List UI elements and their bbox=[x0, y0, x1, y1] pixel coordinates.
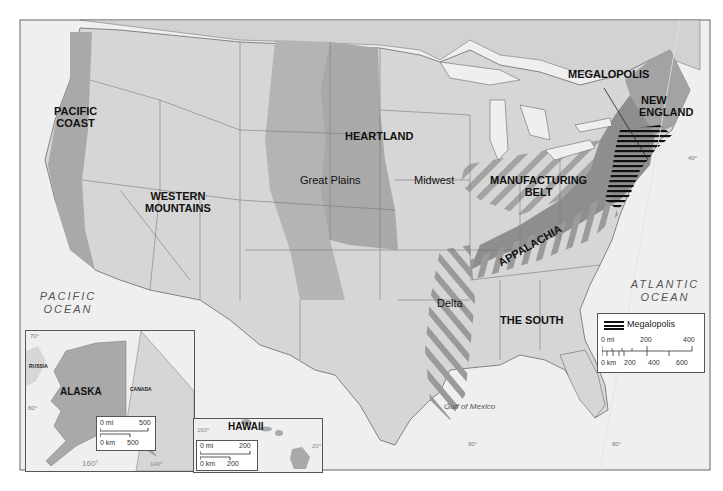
region-label-midwest: Midwest bbox=[414, 174, 454, 186]
manufacturing-belt-line1: MANUFACTURING bbox=[490, 174, 587, 186]
region-label-new-england: NEW ENGLAND bbox=[639, 94, 693, 118]
lat-40-label: 40° bbox=[688, 155, 697, 161]
pacific-coast-line1: PACIFIC bbox=[54, 105, 97, 117]
scale-km-400: 400 bbox=[648, 359, 660, 366]
hawaii-inset: HAWAII 160° 20° 0 mi 200 0 km 200 bbox=[193, 418, 323, 473]
alaska-inset: 70° 60° RUSSIA CANADA ALASKA 0 mi 500 0 … bbox=[25, 330, 195, 472]
region-label-western-mountains: WESTERN MOUNTAINS bbox=[145, 190, 211, 214]
hi-scale-mi-start: 0 mi bbox=[200, 442, 213, 449]
ak-scale-km-start: 0 km bbox=[100, 439, 115, 446]
new-england-line2: ENGLAND bbox=[639, 106, 693, 118]
region-label-delta: Delta bbox=[437, 297, 463, 309]
lon-90-label: 90° bbox=[468, 441, 477, 447]
atlantic-line1: ATLANTIC bbox=[625, 278, 705, 291]
scale-km-200: 200 bbox=[624, 359, 636, 366]
lon-80-label: 80° bbox=[612, 441, 621, 447]
new-england-line1: NEW bbox=[639, 94, 693, 106]
hawaii-label: HAWAII bbox=[228, 421, 264, 433]
canada-label: CANADA bbox=[130, 386, 152, 392]
ak-scale-km-end: 500 bbox=[127, 439, 139, 446]
pacific-line2: OCEAN bbox=[28, 303, 108, 316]
ak-scale-mi-end: 500 bbox=[139, 419, 151, 426]
russia-label: RUSSIA bbox=[29, 363, 48, 369]
alaska-scale-box: 0 mi 500 0 km 500 bbox=[96, 416, 156, 451]
hi-scale-km-end: 200 bbox=[227, 460, 239, 467]
scale-mi-end: 400 bbox=[683, 336, 695, 343]
scale-bar bbox=[602, 344, 698, 358]
legend-megalopolis-label: Megalopolis bbox=[627, 319, 675, 329]
ak-scale-bar bbox=[100, 428, 152, 438]
ak-lat-70: 70° bbox=[30, 333, 39, 339]
region-label-pacific-coast: PACIFIC COAST bbox=[54, 105, 97, 129]
hi-lon-160: 160° bbox=[197, 427, 209, 433]
region-label-manufacturing-belt: MANUFACTURING BELT bbox=[490, 174, 587, 198]
hawaii-scale-box: 0 mi 200 0 km 200 bbox=[196, 440, 258, 471]
hi-scale-km-start: 0 km bbox=[200, 460, 215, 467]
ak-lat-60: 60° bbox=[28, 405, 37, 411]
manufacturing-belt-line2: BELT bbox=[490, 186, 587, 198]
hi-scale-mi-end: 200 bbox=[239, 442, 251, 449]
atlantic-ocean-label: ATLANTIC OCEAN bbox=[625, 278, 705, 304]
region-label-megalopolis: MEGALOPOLIS bbox=[568, 68, 649, 80]
ak-scale-mi-start: 0 mi bbox=[100, 419, 113, 426]
region-label-great-plains: Great Plains bbox=[300, 174, 361, 186]
scale-mi-start: 0 mi bbox=[601, 336, 614, 343]
ak-lon-140: 140° bbox=[150, 461, 162, 467]
scale-mi-mid: 200 bbox=[640, 336, 652, 343]
pacific-ocean-label: PACIFIC OCEAN bbox=[28, 290, 108, 316]
legend-box: Megalopolis 0 mi 200 400 0 km 200 400 60… bbox=[597, 313, 705, 373]
region-label-the-south: THE SOUTH bbox=[500, 314, 564, 326]
hi-lat-20: 20° bbox=[312, 443, 321, 449]
megalopolis-symbol-icon bbox=[604, 321, 624, 330]
region-label-heartland: HEARTLAND bbox=[345, 130, 413, 142]
pacific-coast-line2: COAST bbox=[54, 117, 97, 129]
western-mountains-line2: MOUNTAINS bbox=[145, 202, 211, 214]
western-mountains-line1: WESTERN bbox=[145, 190, 211, 202]
pacific-line1: PACIFIC bbox=[28, 290, 108, 303]
scale-km-600: 600 bbox=[676, 359, 688, 366]
ak-lon-160: 160° bbox=[82, 459, 99, 468]
atlantic-line2: OCEAN bbox=[625, 291, 705, 304]
gulf-of-mexico-label: Gulf of Mexico bbox=[444, 402, 495, 411]
alaska-label: ALASKA bbox=[60, 386, 102, 398]
scale-km-start: 0 km bbox=[601, 359, 616, 366]
